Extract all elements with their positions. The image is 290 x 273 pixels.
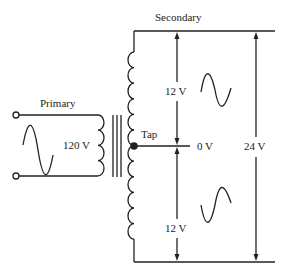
lower-sine-icon [201,187,231,222]
tap-voltage-label: 0 V [197,141,213,152]
secondary-label: Secondary [155,12,201,23]
primary-coil [98,115,104,176]
tap-dot [130,142,138,150]
primary-label: Primary [40,98,75,109]
lower-voltage-label: 12 V [165,223,187,234]
primary-voltage-label: 120 V [63,140,90,151]
primary-terminal-top [13,112,19,118]
primary-terminal-bottom [13,173,19,179]
total-voltage-label: 24 V [244,141,266,152]
upper-voltage-label: 12 V [165,86,187,97]
upper-sine-icon [201,74,231,107]
tap-label: Tap [141,129,157,140]
primary-sine-icon [23,125,53,174]
